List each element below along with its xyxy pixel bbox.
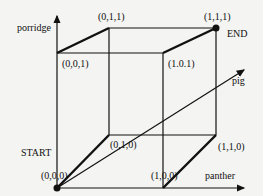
vertex-label-010: (0,1,0) [110,140,137,150]
start-label: START [21,148,51,158]
vertex-label-110: (1,1,0) [218,142,245,152]
vertex-label-000: (0,0,0) [41,171,68,181]
vertex-label-100: (1,0,0) [151,171,178,181]
vertex-label-001: (0,0,1) [62,59,89,69]
start-node [54,185,61,192]
axis-label-porridge: porridge [17,23,51,33]
vertex-label-101: (1.0.1) [168,59,195,69]
end-label: END [227,29,248,39]
cube-diagram: porridge pig panther (0,1,1) (1,1,1) END… [0,0,263,196]
vertex-label-011: (0,1,1) [98,12,125,22]
axis-label-pig: pig [232,76,245,86]
end-node [213,25,220,32]
heavy-edges [57,28,216,188]
axis-label-panther: panther [205,171,235,181]
vertex-label-111: (1,1,1) [204,12,231,22]
